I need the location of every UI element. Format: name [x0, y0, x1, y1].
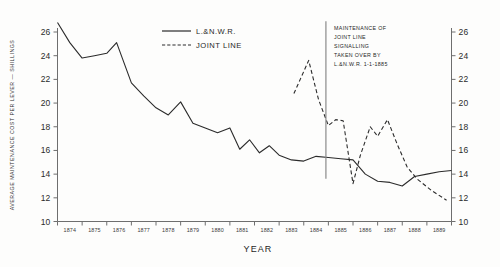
- annotation-line-5: L.&N.W.R. 1-1-1885: [334, 61, 388, 67]
- y-axis-title: AVERAGE MAINTENANCE COST PER LEVER — SHI…: [9, 40, 15, 211]
- y-tick-label-left: 22: [41, 74, 51, 84]
- x-tick-label: 1877: [137, 227, 149, 233]
- annotation-line-3: SIGNALLING: [334, 43, 369, 49]
- x-tick-label: 1889: [433, 227, 445, 233]
- x-axis-ticks: [58, 222, 452, 226]
- chart-series-layer: [58, 23, 452, 201]
- y-tick-label-right: 18: [459, 122, 469, 132]
- chart-figure: 101214161820222426 101214161820222426 18…: [0, 0, 500, 267]
- annotation-takeover: MAINTENANCE OF JOINT LINE SIGNALLING TAK…: [326, 21, 388, 179]
- x-tick-label: 1885: [334, 227, 346, 233]
- series-line-joint: [294, 60, 447, 200]
- x-tick-label: 1888: [408, 227, 420, 233]
- x-axis-tick-labels: 1874187518761877187818791880188118821883…: [64, 227, 446, 233]
- y-tick-label-right: 24: [459, 51, 469, 61]
- y-tick-label-left: 12: [41, 193, 51, 203]
- annotation-line-2: JOINT LINE: [334, 34, 366, 40]
- x-axis-title: YEAR: [244, 244, 273, 254]
- x-tick-label: 1880: [211, 227, 223, 233]
- y-tick-label-left: 18: [41, 122, 51, 132]
- y-tick-label-left: 20: [41, 98, 51, 108]
- x-tick-label: 1887: [384, 227, 396, 233]
- x-tick-label: 1881: [236, 227, 248, 233]
- chart-axes: [58, 28, 452, 222]
- x-tick-label: 1884: [310, 227, 322, 233]
- annotation-line-4: TAKEN OVER BY: [334, 52, 381, 58]
- legend-label-joint: JOINT LINE: [196, 41, 242, 50]
- series-line-lnwr: [58, 23, 452, 186]
- x-tick-label: 1876: [113, 227, 125, 233]
- y-axis-title-text: AVERAGE MAINTENANCE COST PER LEVER — SHI…: [9, 40, 15, 211]
- x-tick-label: 1882: [261, 227, 273, 233]
- x-tick-label: 1879: [187, 227, 199, 233]
- annotation-line-1: MAINTENANCE OF: [334, 25, 387, 31]
- x-tick-label: 1878: [162, 227, 174, 233]
- y-tick-label-right: 10: [459, 217, 469, 227]
- legend-label-lnwr: L.&N.W.R.: [196, 27, 236, 36]
- y-tick-label-right: 12: [459, 193, 469, 203]
- x-tick-label: 1883: [285, 227, 297, 233]
- y-tick-label-right: 14: [459, 169, 469, 179]
- y-tick-label-left: 10: [41, 217, 51, 227]
- y-tick-label-right: 20: [459, 98, 469, 108]
- y-tick-label-left: 16: [41, 145, 51, 155]
- x-tick-label: 1874: [64, 227, 76, 233]
- x-tick-label: 1886: [359, 227, 371, 233]
- y-tick-label-right: 16: [459, 145, 469, 155]
- y-axis-left-ticks: 101214161820222426: [41, 27, 58, 227]
- x-tick-label: 1875: [88, 227, 100, 233]
- y-axis-right-ticks: 101214161820222426: [452, 27, 469, 227]
- y-tick-label-left: 24: [41, 51, 51, 61]
- y-tick-label-left: 26: [41, 27, 51, 37]
- chart-legend: L.&N.W.R. JOINT LINE: [162, 27, 242, 50]
- line-chart: 101214161820222426 101214161820222426 18…: [0, 0, 500, 267]
- y-tick-label-left: 14: [41, 169, 51, 179]
- y-tick-label-right: 26: [459, 27, 469, 37]
- y-tick-label-right: 22: [459, 74, 469, 84]
